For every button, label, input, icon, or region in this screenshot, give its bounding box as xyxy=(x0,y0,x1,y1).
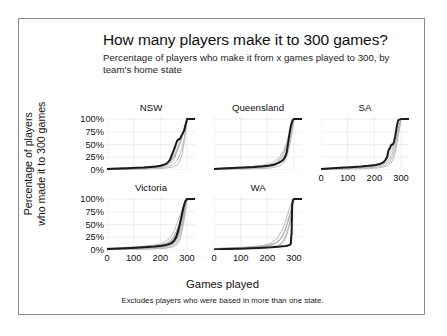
team-lines xyxy=(214,199,302,249)
facet-title-victoria: Victoria xyxy=(107,182,195,193)
x-tick-label: 200 xyxy=(153,253,169,263)
chart-subtitle: Percentage of players who make it from x… xyxy=(103,52,393,77)
y-tick-label: 0% xyxy=(91,245,104,255)
x-tick-label: 100 xyxy=(233,253,249,263)
plot-area xyxy=(321,115,409,170)
plot-area xyxy=(214,195,302,250)
y-axis-label: Percentage of players who made it to 300… xyxy=(22,74,47,254)
y-tick-label: 50% xyxy=(85,220,104,230)
y-tick-label: 0% xyxy=(91,165,104,175)
plot-area xyxy=(107,195,195,250)
x-tick-label: 200 xyxy=(260,253,276,263)
y-tick-label: 100% xyxy=(80,114,104,124)
x-tick-label: 300 xyxy=(179,253,195,263)
facet-title-wa: WA xyxy=(214,182,302,193)
chart-card: How many players make it to 300 games? P… xyxy=(18,18,425,315)
x-tick-label: 0 xyxy=(211,253,216,263)
y-tick-label: 25% xyxy=(85,232,104,242)
state-aggregate-line xyxy=(107,119,195,169)
chart-footnote: Excludes players who were based in more … xyxy=(19,296,426,305)
gridlines xyxy=(214,195,302,250)
facet-title-sa: SA xyxy=(321,102,409,113)
y-tick-label: 25% xyxy=(85,152,104,162)
x-axis-label: Games played xyxy=(19,278,426,290)
x-tick-label: 300 xyxy=(286,253,302,263)
y-tick-label: 75% xyxy=(85,207,104,217)
y-tick-label: 100% xyxy=(80,194,104,204)
facet-title-nsw: NSW xyxy=(107,102,195,113)
state-aggregate-line xyxy=(214,119,302,169)
y-tick-label: 75% xyxy=(85,127,104,137)
facet-title-queensland: Queensland xyxy=(214,102,302,113)
x-tick-label: 100 xyxy=(340,173,356,183)
y-tick-label: 50% xyxy=(85,140,104,150)
gridlines xyxy=(107,195,195,250)
x-tick-label: 0 xyxy=(318,173,323,183)
chart-title: How many players make it to 300 games? xyxy=(103,31,388,49)
plot-area xyxy=(214,115,302,170)
x-tick-label: 200 xyxy=(367,173,383,183)
plot-area xyxy=(107,115,195,170)
x-tick-label: 0 xyxy=(104,253,109,263)
x-tick-label: 100 xyxy=(126,253,142,263)
state-aggregate-line xyxy=(321,119,409,169)
x-tick-label: 300 xyxy=(393,173,409,183)
gridlines xyxy=(107,115,195,170)
